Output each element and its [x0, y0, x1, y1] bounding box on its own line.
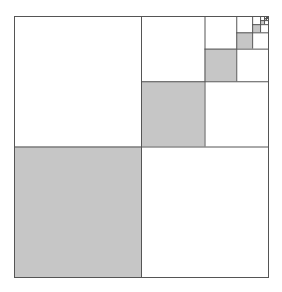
- square-subdivision-diagram: [0, 0, 282, 292]
- shaded-square-level-2: [141, 81, 205, 146]
- shaded-square-level-4: [236, 32, 252, 48]
- shaded-square-level-1: [14, 147, 141, 278]
- shaded-square-level-3: [205, 49, 237, 82]
- shaded-square-level-5: [252, 24, 260, 32]
